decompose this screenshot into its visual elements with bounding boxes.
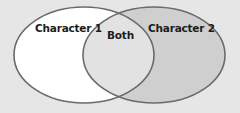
- left-set-label: Character 1: [35, 23, 102, 34]
- right-set-label: Character 2: [148, 23, 215, 34]
- intersection-label: Both: [107, 30, 134, 41]
- venn-diagram: Character 1 Both Character 2: [0, 0, 240, 113]
- venn-shapes: [0, 0, 240, 113]
